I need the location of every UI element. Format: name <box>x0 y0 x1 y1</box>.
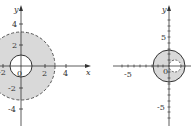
left-plot: -2 0 2 4 x y 4 2 -2 -4 <box>0 5 91 126</box>
y-tick-label: -4 <box>8 105 16 114</box>
origin-label: 0 <box>17 69 22 78</box>
y-tick-label: -2 <box>8 84 16 93</box>
x-tick-label: -5 <box>124 70 132 79</box>
y-tick-label: 2 <box>12 41 17 50</box>
y-axis-arrow-icon <box>19 5 23 11</box>
y-tick-label: 5 <box>161 33 166 42</box>
x-tick-label: 2 <box>42 69 47 78</box>
y-tick-label: 4 <box>12 20 17 29</box>
x-tick-label: 4 <box>63 69 68 78</box>
figure-canvas: -2 0 2 4 x y 4 2 -2 -4 <box>0 0 191 128</box>
y-tick-label: -5 <box>157 103 165 112</box>
x-tick-label: -2 <box>0 68 6 77</box>
right-plot: -5 0 y 5 -5 <box>113 5 191 126</box>
y-axis-label: y <box>13 5 19 14</box>
x-axis-label: x <box>86 68 91 77</box>
y-axis-label: y <box>161 5 167 14</box>
origin-label: 0 <box>163 67 168 76</box>
y-axis-arrow-icon <box>167 5 171 11</box>
